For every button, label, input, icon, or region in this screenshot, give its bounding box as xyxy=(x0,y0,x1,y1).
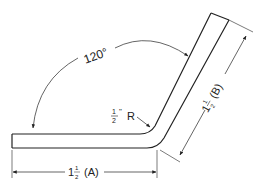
bent-bar xyxy=(12,13,229,148)
svg-text:1: 1 xyxy=(112,108,116,115)
svg-text:1: 1 xyxy=(68,166,74,178)
angle-arc xyxy=(33,41,188,128)
radius-callout: 1 2 " R xyxy=(111,107,150,127)
dimension-b: 1 1 2 (B) xyxy=(160,20,253,162)
svg-text:2: 2 xyxy=(75,174,79,180)
svg-text:1: 1 xyxy=(75,165,79,171)
svg-text:(A): (A) xyxy=(84,166,99,178)
svg-text:(B): (B) xyxy=(207,82,225,101)
bent-bar-diagram: 120° 1 2 " R 1 1 2 (A) 1 1 2 (B) xyxy=(0,0,263,190)
svg-text:R: R xyxy=(127,110,135,122)
angle-label: 120° xyxy=(82,45,110,67)
svg-text:2: 2 xyxy=(112,117,116,124)
svg-text:": " xyxy=(119,107,122,116)
dimension-a: 1 1 2 (A) xyxy=(12,150,157,180)
